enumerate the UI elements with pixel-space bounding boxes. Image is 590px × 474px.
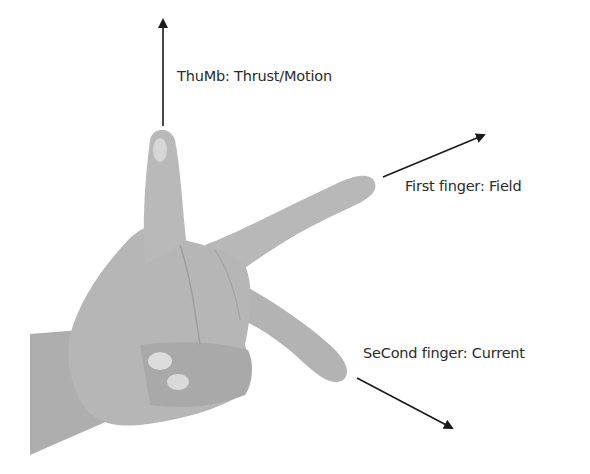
first-finger-label: First finger: Field	[405, 178, 521, 194]
hand-icon	[30, 130, 375, 455]
field-arrow	[383, 135, 484, 177]
thumb-label: ThuMb: Thrust/Motion	[177, 68, 332, 84]
second-finger-label: SeCond finger: Current	[363, 345, 525, 361]
current-arrow	[357, 378, 452, 428]
diagram-canvas: ThuMb: Thrust/Motion First finger: Field…	[0, 0, 590, 474]
